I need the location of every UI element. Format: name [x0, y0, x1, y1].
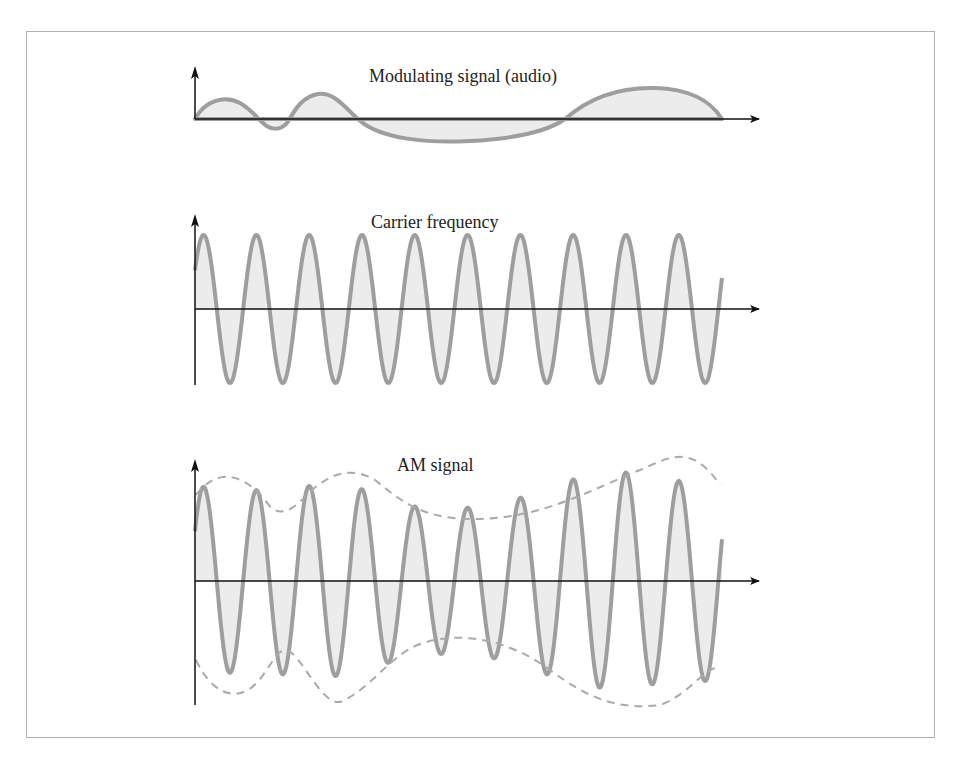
am-diagram: Modulating signal (audio) Carrier freque…: [0, 0, 963, 764]
modulating-signal-panel: Modulating signal (audio): [191, 66, 759, 142]
panel-title: AM signal: [397, 455, 474, 475]
am-panel: [195, 473, 722, 688]
panel-title: Carrier frequency: [371, 212, 498, 232]
modulating-wave: [195, 88, 722, 142]
panel-title: Modulating signal (audio): [369, 66, 557, 87]
